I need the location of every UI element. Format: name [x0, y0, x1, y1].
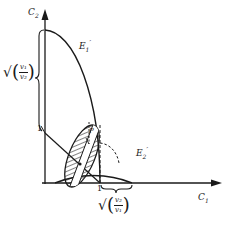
phase-diagram	[0, 0, 230, 226]
x-tick-one: 1	[97, 185, 102, 193]
brace-x	[101, 185, 132, 193]
y-axis	[42, 9, 49, 184]
brace-y-label: √ ( v₁v₂ )	[3, 63, 35, 81]
brace-y	[35, 30, 44, 131]
dashed-arc	[100, 143, 119, 163]
curve-e1-label: E1′	[79, 40, 91, 53]
curve-e2-label: E2′	[136, 147, 148, 160]
y-axis-arrow-icon	[42, 9, 49, 20]
x-axis-arrow-icon	[211, 180, 222, 187]
y-axis-label: C2	[28, 8, 39, 19]
y-tick-one: 1	[37, 125, 42, 133]
brace-x-label: √ ( v₂v₁ )	[98, 196, 130, 214]
point-p-dot	[78, 162, 81, 165]
x-axis-label: C1	[198, 193, 209, 204]
point-p-label: P	[89, 128, 94, 135]
